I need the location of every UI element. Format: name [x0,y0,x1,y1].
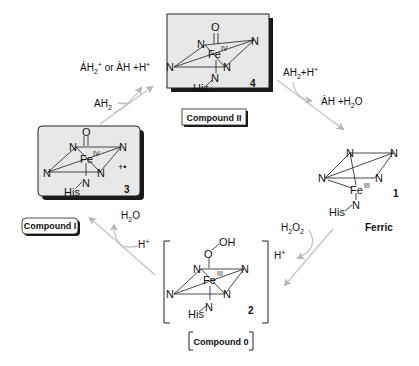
arrow-3-to-4-branch [114,88,141,113]
left-bracket [164,241,170,323]
compound-3-box: O N N N N Fe IV +• N His 3 [38,126,144,200]
compound-4-n: N [223,61,231,73]
product-radical-label: ȦH2+ or ȦH +H+ [80,61,150,75]
catalytic-cycle-diagram: O N N N N Fe IV N His 4 Compound II [0,0,419,366]
compound-i-label: Compound I [22,218,80,236]
compound-4-axial-n: N [211,72,219,84]
hplus-input-label: H+ [138,238,149,250]
compound-4-oxidation-state: IV [221,45,228,52]
compound-2-his: His [188,308,204,320]
compound-3-fe: Fe [80,153,93,165]
step-3-to-4-labels: ȦH2+ or ȦH +H+ AH2 [80,61,150,111]
compound-3-number: 3 [124,184,130,195]
compound-2-axial-n: N [205,301,213,313]
compound-1-n: N [390,147,398,159]
arrow-3-to-4-input [118,103,130,104]
compound-4-box: O N N N N Fe IV N His 4 [166,14,273,94]
compound-2-fe: Fe [203,274,216,286]
step-2-to-3-labels: H2O H+ [121,210,149,250]
compound-3-his: His [64,186,80,198]
compound-1-n: N [346,147,354,159]
compound-3-n: N [69,141,77,153]
compound-1-fe: Fe [350,184,363,196]
compound-ii-label: Compound II [182,109,248,127]
step-4-to-1-labels: AH2+H+ ȦH +H2O [283,66,363,109]
compound-0-label-text: Compound 0 [194,337,249,347]
ah2-hplus-label: AH2+H+ [283,66,318,80]
right-bracket [262,241,268,323]
compound-1-axial-n: N [352,199,360,211]
step-1-to-2-labels: H2O2 H+ [274,222,304,261]
compound-3-oxidation-state: IV [93,150,100,157]
ah2-input-label: AH2 [94,98,112,111]
compound-2-oxygen: O [204,248,213,260]
arrow-2-to-3-branch [114,225,138,247]
compound-2-number: 2 [248,305,254,316]
compound-2-oxidation-state: III [217,270,223,277]
compound-4-fe: Fe [208,48,221,60]
ah-h2o-label: ȦH +H2O [321,95,363,109]
arrow-4-to-1-branch [293,82,311,101]
compound-3-n: N [97,167,105,179]
compound-2-n: N [241,263,249,275]
ferric-label: Ferric [365,222,393,233]
compound-3-n: N [43,167,51,179]
compound-1-oxidation-state: III [364,182,370,189]
compound-1-n: N [318,172,326,184]
compound-4-his: His [193,82,209,94]
compound-2-n: N [193,263,201,275]
compound-4-n: N [166,61,174,73]
compound-1-ferric: N N N N Fe III N His 1 Ferric [318,147,399,233]
compound-ii-label-text: Compound II [187,113,242,123]
compound-2-bracketed: OH O N N N N Fe III N His 2 [164,236,268,323]
compound-i-label-text: Compound I [24,221,77,231]
h2o2-input-label: H2O2 [281,222,304,235]
compound-1-n: N [375,172,383,184]
compound-0-label: Compound 0 [189,332,253,350]
compound-2-n: N [166,288,174,300]
compound-1-number: 1 [393,188,399,199]
arrow-1-to-2 [285,229,333,285]
compound-3-radical-cation: +• [118,162,126,172]
hplus-output-label: H+ [274,249,285,261]
compound-4-n: N [197,38,205,50]
compound-3-n: N [119,141,127,153]
compound-3-oxo: O [82,126,91,138]
compound-3-axial-n: N [82,177,90,189]
compound-1-his: His [329,206,345,218]
compound-4-n: N [251,35,259,47]
h2o-output-label: H2O [121,210,140,223]
compound-2-hydroxyl: OH [219,236,236,248]
arrow-2-to-3 [90,218,155,275]
compound-4-oxo: O [211,21,220,33]
compound-2-n: N [223,288,231,300]
compound-4-number: 4 [250,78,256,89]
